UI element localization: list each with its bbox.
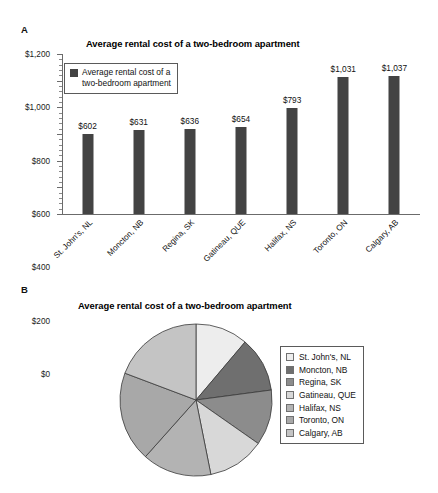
pie-legend-swatch xyxy=(286,391,294,399)
bar xyxy=(338,77,349,214)
bar-group: $793Halifax, NS xyxy=(267,54,318,214)
pie-legend-swatch xyxy=(286,366,294,374)
x-axis-category-label: Moncton, NB xyxy=(105,218,145,258)
bar-chart-x-axis xyxy=(62,214,420,215)
bar-group: $1,031Toronto, ON xyxy=(318,54,369,214)
pie-legend-row: Regina, SK xyxy=(286,376,356,389)
pie-legend-row: Gatineau, QUE xyxy=(286,389,356,402)
bar-value-label: $1,037 xyxy=(382,63,407,73)
pie-chart-title: Average rental cost of a two-bedroom apa… xyxy=(78,300,292,311)
y-tick-major: $0 xyxy=(57,214,62,215)
bar-chart-legend-swatch xyxy=(70,69,78,77)
bar-chart-legend-line1: Average rental cost of a xyxy=(82,67,170,77)
panel-b-letter: B xyxy=(21,284,28,295)
pie-legend-row: Halifax, NS xyxy=(286,401,356,414)
pie-legend-label: Halifax, NS xyxy=(299,403,341,413)
y-axis-label: $1,000 xyxy=(25,103,50,112)
bar xyxy=(133,130,144,214)
bar xyxy=(287,108,298,214)
x-axis-category-label: Toronto, ON xyxy=(312,218,350,256)
x-axis-category-label: Gatineau, QUE xyxy=(202,218,248,264)
bar-chart-title: Average rental cost of a two-bedroom apa… xyxy=(86,38,300,49)
y-axis-label: $800 xyxy=(32,156,50,165)
bar-value-label: $1,031 xyxy=(331,64,356,74)
pie-legend-label: Moncton, NB xyxy=(299,365,347,375)
pie-legend-swatch xyxy=(286,404,294,412)
pie-legend-row: St. John's, NL xyxy=(286,351,356,364)
panel-a-letter: A xyxy=(21,24,28,35)
pie-legend-row: Toronto, ON xyxy=(286,414,356,427)
pie-legend-swatch xyxy=(286,378,294,386)
bar xyxy=(389,76,400,214)
bar xyxy=(235,127,246,214)
pie-legend-label: St. John's, NL xyxy=(299,352,351,362)
pie-chart-legend: St. John's, NLMoncton, NBRegina, SKGatin… xyxy=(280,346,364,444)
panel-b-pie-chart: B Average rental cost of a two-bedroom a… xyxy=(0,280,438,493)
x-axis-category-label: Halifax, NS xyxy=(263,218,298,253)
pie-legend-swatch xyxy=(286,353,294,361)
pie-legend-swatch xyxy=(286,416,294,424)
pie-chart-graphic xyxy=(118,322,274,478)
bar-value-label: $631 xyxy=(129,117,147,127)
y-axis-label: $1,200 xyxy=(25,50,50,59)
x-axis-category-label: Calgary, AB xyxy=(364,218,401,255)
bar-value-label: $654 xyxy=(232,114,250,124)
bar xyxy=(82,134,93,214)
bar-chart-legend-line2: two-bedroom apartment xyxy=(82,78,171,89)
pie-legend-row: Moncton, NB xyxy=(286,364,356,377)
pie-legend-label: Gatineau, QUE xyxy=(299,390,356,400)
pie-legend-swatch xyxy=(286,429,294,437)
pie-legend-label: Calgary, AB xyxy=(299,428,343,438)
bar-chart-legend-text: Average rental cost of a two-bedroom apa… xyxy=(82,67,171,89)
pie-chart-svg xyxy=(118,322,274,478)
y-axis-label: $400 xyxy=(32,263,50,272)
pie-legend-row: Calgary, AB xyxy=(286,427,356,440)
x-axis-category-label: Regina, SK xyxy=(161,218,197,254)
bar-value-label: $636 xyxy=(181,116,199,126)
bar-chart-legend: Average rental cost of a two-bedroom apa… xyxy=(64,63,178,94)
panel-a-bar-chart: A Average rental cost of a two-bedroom a… xyxy=(0,0,438,280)
bar-group: $654Gatineau, QUE xyxy=(215,54,266,214)
y-axis-label: $600 xyxy=(32,210,50,219)
x-axis-category-label: St. John's, NL xyxy=(52,218,94,260)
pie-legend-label: Regina, SK xyxy=(299,377,341,387)
pie-legend-label: Toronto, ON xyxy=(299,415,344,425)
bar-value-label: $793 xyxy=(283,95,301,105)
bar xyxy=(184,129,195,214)
bar-group: $1,037Calgary, AB xyxy=(369,54,420,214)
bar-value-label: $602 xyxy=(78,121,96,131)
